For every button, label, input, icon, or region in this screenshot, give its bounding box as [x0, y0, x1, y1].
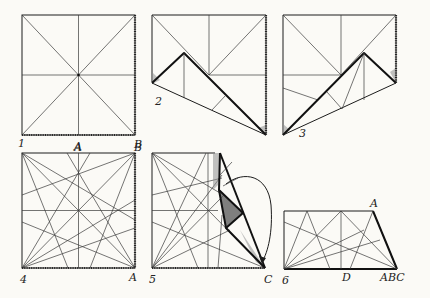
step-2-diagonal [152, 15, 209, 75]
step-4-label-a-top: A [73, 140, 82, 153]
step-5-crease [152, 195, 224, 268]
step-6-label-abc: ABC [379, 271, 405, 284]
step-1: 1 A B [18, 15, 142, 154]
step-2: 2 [152, 15, 266, 135]
step-6-trapezoid [284, 211, 397, 269]
step-4-label-a-bottom: A [128, 271, 137, 284]
step-5-number: 5 [149, 273, 156, 286]
step-2-diagonal [209, 15, 266, 75]
step-6-label-d: D [341, 271, 351, 284]
origami-diagram: 1 A B 2 3 [0, 0, 430, 298]
step-1-center-point [77, 74, 80, 77]
step-3-diagonal [283, 15, 341, 75]
step-4-number: 4 [19, 273, 27, 286]
step-5-crease [152, 178, 222, 195]
step-6-number: 6 [282, 274, 289, 287]
step-1-number: 1 [18, 137, 25, 150]
step-6-crease [341, 211, 397, 269]
step-5-flap-crease [220, 162, 232, 175]
step-5-label-c: C [264, 273, 273, 286]
step-6-label-a: A [369, 197, 378, 210]
step-6: 6 A D ABC [282, 197, 405, 287]
step-3: 3 [283, 15, 396, 140]
step-3-diagonal [341, 15, 396, 75]
step-6-crease [350, 211, 373, 269]
step-5-crease [218, 215, 222, 268]
step-3-flap-crease [327, 92, 342, 109]
step-2-lower-edge [152, 83, 266, 135]
step-4-label-b: B [133, 141, 142, 154]
step-6-crease [284, 211, 307, 269]
step-4: 4 A B A [19, 140, 142, 286]
step-3-crease [283, 88, 318, 100]
step-2-number: 2 [154, 95, 162, 108]
step-2-flap-crease [212, 95, 226, 110]
step-5: 5 C [149, 153, 273, 286]
step-3-number: 3 [299, 127, 306, 140]
